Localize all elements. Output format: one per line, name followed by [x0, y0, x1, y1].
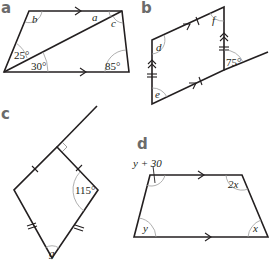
angle-b: b: [32, 13, 38, 25]
figure-a-label: a: [1, 0, 11, 17]
extension-line-c: [57, 106, 97, 147]
angle-d: d: [156, 41, 162, 53]
kite-c: [14, 147, 98, 258]
angle-a: a: [92, 11, 98, 23]
right-angle-icon: [62, 142, 67, 152]
angle-25: 25°: [14, 49, 29, 61]
figure-d-label: d: [137, 135, 148, 153]
figure-a: a b a c 25° 30° 85°: [1, 0, 129, 76]
angle-y-plus-30: y + 30: [132, 157, 162, 169]
angle-g: g: [49, 247, 55, 259]
figure-d: d y + 30 2x y x: [132, 135, 268, 241]
angle-85: 85°: [105, 60, 120, 72]
angle-75: 75°: [226, 56, 241, 68]
figure-c-label: c: [1, 105, 10, 123]
equal-tick: [74, 228, 83, 231]
angle-y: y: [142, 222, 148, 234]
angle-x: x: [252, 222, 258, 234]
figure-c: c 115° g: [1, 105, 98, 259]
angle-115: 115°: [75, 184, 96, 196]
figure-b: b d f e 75°: [141, 0, 268, 104]
angle-2x: 2x: [228, 178, 239, 190]
figure-b-label: b: [141, 0, 152, 17]
geometry-figures: a b a c 25° 30° 85° b: [0, 0, 273, 262]
equal-tick: [75, 225, 84, 228]
trapezium-d: [134, 175, 268, 237]
angle-30: 30°: [31, 60, 46, 72]
angle-e: e: [155, 88, 160, 100]
angle-c: c: [111, 17, 116, 29]
angle-f: f: [212, 14, 217, 26]
